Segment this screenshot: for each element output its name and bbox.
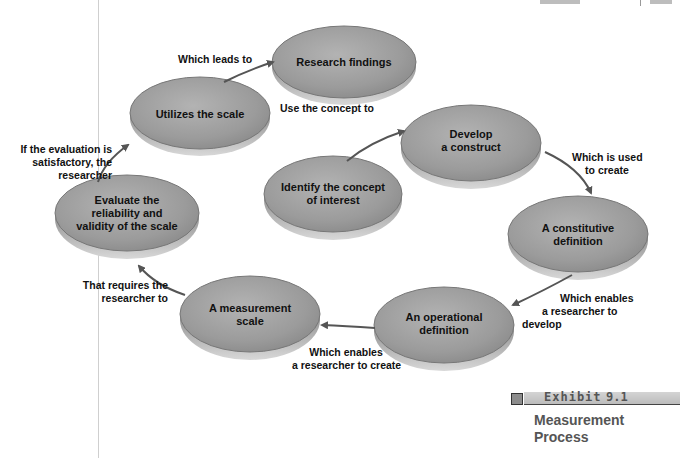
node-label-develop-construct: Developa construct <box>401 124 541 158</box>
arrow-identify-to-construct <box>347 131 404 161</box>
edge-label-use-concept-to: Use the concept to <box>280 102 374 115</box>
node-label-evaluate: Evaluate thereliability andvalidity of t… <box>57 191 197 235</box>
node-label-identify-concept: Identify the conceptof interest <box>263 177 403 211</box>
edge-label-if-evaluation-satisfactory: If the evaluation issatisfactory, theres… <box>20 143 112 182</box>
edge-label-which-is-used-to-create: Which is usedto create <box>572 151 642 177</box>
exhibit-square-icon <box>511 393 523 405</box>
node-label-constitutive-definition: A constitutivedefinition <box>508 218 648 252</box>
edge-label-that-requires: That requires theresearcher to <box>68 279 168 305</box>
arrow-operational-to-scale <box>322 325 375 328</box>
node-label-utilizes-scale: Utilizes the scale <box>130 104 270 124</box>
node-label-research-findings: Research findings <box>274 52 414 72</box>
edge-label-which-enables-develop: Which enablesa researcher todevelop <box>522 292 634 331</box>
node-label-operational-definition: An operationaldefinition <box>374 307 514 341</box>
edge-label-which-enables-create: Which enablesa researcher to create <box>292 346 400 372</box>
figure-caption: Measurement Process <box>534 412 624 446</box>
edge-label-which-leads-to: Which leads to <box>178 53 252 66</box>
node-label-measurement-scale: A measurementscale <box>180 298 320 332</box>
exhibit-header: Exhibit 9.1 <box>510 389 670 405</box>
exhibit-label: Exhibit <box>544 390 602 404</box>
exhibit-number: 9.1 <box>606 390 628 404</box>
